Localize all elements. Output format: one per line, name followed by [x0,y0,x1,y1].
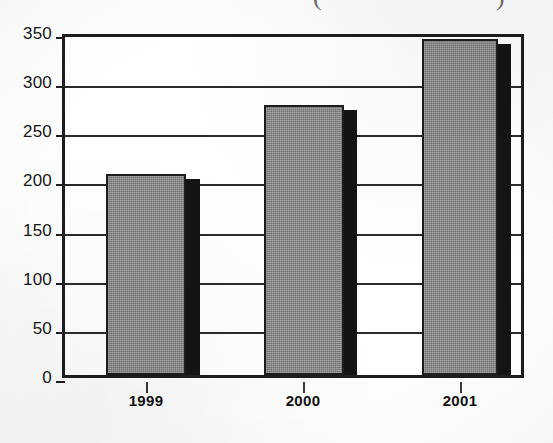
y-axis-tick [56,332,65,334]
bar-2001[interactable] [422,39,511,375]
x-axis-label-2001: 2001 [443,392,478,409]
bar-shadow [186,179,200,375]
y-axis-tick-label: 50 [33,319,52,339]
y-axis-tick [56,283,65,285]
y-axis-tick [56,37,65,39]
bar-body [264,105,344,375]
y-axis-tick [56,86,65,88]
x-axis-ticks [0,378,553,392]
bar-shadow [498,44,511,375]
bar-body [106,174,186,375]
y-axis-tick [56,135,65,137]
y-axis-tick-label: 150 [23,221,52,241]
bar-body [422,39,498,375]
bar-shadow [344,110,357,375]
bar-chart: 050100150200250300350 199920002001 [0,0,553,443]
y-axis-tick-label: 100 [23,270,52,290]
y-axis-tick-label: 300 [23,73,52,93]
y-axis-tick-label: 250 [23,122,52,142]
plot-area [62,34,524,378]
x-axis-label-2000: 2000 [286,392,321,409]
y-axis-tick-label: 350 [23,24,52,44]
y-axis-tick [56,184,65,186]
y-axis-tick [56,234,65,236]
bar-2000[interactable] [264,105,357,375]
bar-1999[interactable] [106,174,200,375]
y-axis-labels: 050100150200250300350 [0,34,56,378]
x-axis-label-1999: 1999 [129,392,164,409]
y-axis-tick-label: 200 [23,171,52,191]
x-axis-labels: 199920002001 [0,392,553,418]
